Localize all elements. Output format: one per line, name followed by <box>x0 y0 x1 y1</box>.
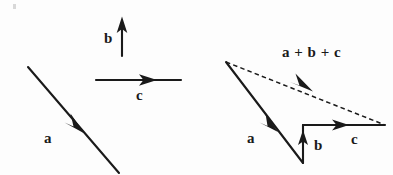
label-vector-b-left: b <box>104 31 112 46</box>
label-vector-b-right: b <box>314 138 322 153</box>
panel-resultant-construction <box>226 62 385 163</box>
vector-b-left <box>117 17 128 57</box>
label-vector-c-right: c <box>351 132 358 147</box>
label-vector-a-left: a <box>44 131 52 146</box>
vector-c-right <box>303 119 385 130</box>
vector-c-left <box>96 74 181 86</box>
label-vector-resultant: a + b + c <box>282 45 341 60</box>
label-vector-c-left: c <box>136 88 143 103</box>
vector-a-left <box>28 67 119 173</box>
vector-diagram-canvas <box>0 0 393 175</box>
vector-a-left-arrowhead <box>65 114 85 134</box>
vector-addition-figure: a b c a b c a + b + c <box>0 0 393 175</box>
vector-a-right-arrowhead <box>260 114 279 133</box>
label-vector-a-right: a <box>247 131 255 146</box>
